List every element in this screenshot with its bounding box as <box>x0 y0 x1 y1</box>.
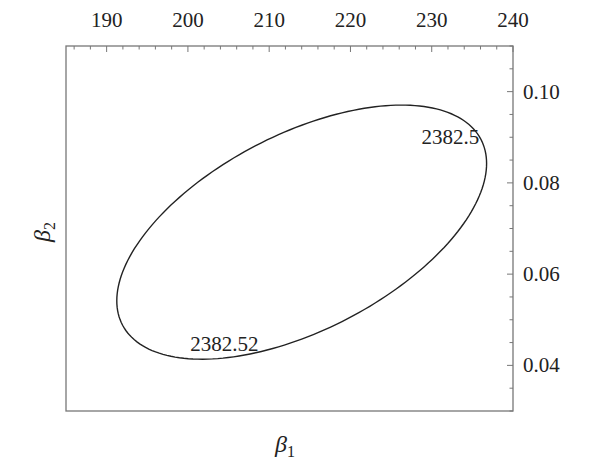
x-tick-labels: 190200210220230240 <box>91 8 529 32</box>
y-axis-title-sub: 2 <box>41 222 58 230</box>
y-tick-label: 0.10 <box>523 80 560 104</box>
contour-level-label: 2382.5 <box>422 125 480 149</box>
contour-chart: 190200210220230240 0.040.060.080.10 2382… <box>0 0 597 472</box>
x-tick-label: 220 <box>335 8 367 32</box>
x-tick-label: 230 <box>416 8 448 32</box>
y-tick-label: 0.06 <box>523 262 560 286</box>
contour-labels: 2382.52382.52 <box>190 125 479 356</box>
contour-level-label: 2382.52 <box>190 332 258 356</box>
y-tick-label: 0.04 <box>523 353 560 377</box>
y-tick-label: 0.08 <box>523 171 560 195</box>
x-axis-title-base: β <box>274 431 287 457</box>
x-axis-title-sub: 1 <box>287 443 295 460</box>
plot-frame <box>66 46 513 411</box>
x-tick-label: 200 <box>172 8 204 32</box>
plot-border <box>66 46 513 411</box>
x-axis-ticks <box>74 46 513 52</box>
x-tick-label: 190 <box>91 8 123 32</box>
x-tick-label: 210 <box>253 8 285 32</box>
x-tick-label: 240 <box>497 8 529 32</box>
y-tick-labels: 0.040.060.080.10 <box>523 80 560 378</box>
y-axis-ticks <box>507 46 513 411</box>
x-axis-title: β1 <box>274 431 295 460</box>
y-axis-title-base: β <box>29 230 55 243</box>
y-axis-title: β2 <box>29 222 58 243</box>
